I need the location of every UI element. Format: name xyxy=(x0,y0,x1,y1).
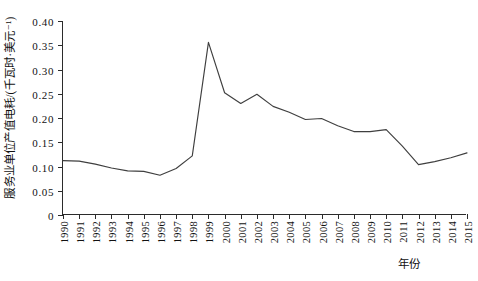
x-axis-tick: 2000 xyxy=(225,214,226,219)
x-axis-tick-label: 1992 xyxy=(91,221,102,243)
chart-figure: 服务业单位产值电耗/(千瓦时·美元⁻¹) 00.050.100.150.200.… xyxy=(0,0,478,281)
x-axis-tick-label: 1997 xyxy=(172,221,183,243)
x-axis-tick: 1994 xyxy=(128,214,129,219)
x-axis-tick: 2008 xyxy=(354,214,355,219)
x-axis-tick: 2005 xyxy=(305,214,306,219)
x-axis-tick-label: 2012 xyxy=(414,221,425,243)
y-axis-title: 服务业单位产值电耗/(千瓦时·美元⁻¹) xyxy=(0,0,18,215)
x-axis-tick-label: 2007 xyxy=(333,221,344,243)
y-axis-tick-label: 0.40 xyxy=(32,16,54,28)
x-axis-tick-label: 2001 xyxy=(236,221,247,243)
x-axis-tick-label: 2013 xyxy=(430,221,441,243)
y-axis-tick: 0.40 xyxy=(58,21,63,22)
y-axis-tick-label: 0.25 xyxy=(32,89,54,101)
y-axis-tick-label: 0.10 xyxy=(32,162,54,174)
series-polyline xyxy=(63,42,467,175)
x-axis-tick: 2014 xyxy=(451,214,452,219)
x-axis-tick: 1998 xyxy=(192,214,193,219)
x-axis-tick-label: 2002 xyxy=(252,221,263,243)
y-axis-tick-label: 0.20 xyxy=(32,113,54,125)
x-axis-tick-label: 1994 xyxy=(123,221,134,243)
x-axis-tick-label: 2015 xyxy=(463,221,474,243)
x-axis-tick: 2006 xyxy=(322,214,323,219)
line-series xyxy=(63,21,467,215)
x-axis-tick: 1996 xyxy=(160,214,161,219)
x-axis-tick-label: 2008 xyxy=(349,221,360,243)
y-axis-tick-label: 0 xyxy=(48,210,54,222)
x-axis-tick-label: 2000 xyxy=(220,221,231,243)
x-axis-tick-label: 2010 xyxy=(382,221,393,243)
y-axis-tick-label: 0.30 xyxy=(32,65,54,77)
x-axis-tick: 2002 xyxy=(257,214,258,219)
x-axis-tick: 2010 xyxy=(386,214,387,219)
x-axis-tick: 2003 xyxy=(273,214,274,219)
x-axis-tick-label: 1991 xyxy=(75,221,86,243)
x-axis-tick-label: 1998 xyxy=(188,221,199,243)
x-axis-tick-label: 1996 xyxy=(155,221,166,243)
x-axis-tick-label: 2003 xyxy=(269,221,280,243)
y-axis-tick: 0.25 xyxy=(58,94,63,95)
y-axis-tick-label: 0.35 xyxy=(32,40,54,52)
x-axis-tick-label: 1993 xyxy=(107,221,118,243)
x-axis-tick: 1991 xyxy=(79,214,80,219)
x-axis-tick-label: 2014 xyxy=(446,221,457,243)
x-axis-tick: 1999 xyxy=(208,214,209,219)
x-axis-tick-label: 1990 xyxy=(59,221,70,243)
x-axis-tick-label: 1999 xyxy=(204,221,215,243)
x-axis-tick: 2015 xyxy=(467,214,468,219)
y-axis-tick-label: 0.15 xyxy=(32,137,54,149)
x-axis-tick: 2011 xyxy=(402,214,403,219)
y-axis-tick: 0.05 xyxy=(58,191,63,192)
y-axis-tick: 0.10 xyxy=(58,167,63,168)
y-axis-tick: 0.35 xyxy=(58,45,63,46)
x-axis-tick: 1992 xyxy=(95,214,96,219)
plot-area: 00.050.100.150.200.250.300.350.401990199… xyxy=(62,21,466,215)
x-axis-tick: 2013 xyxy=(435,214,436,219)
x-axis-tick: 1997 xyxy=(176,214,177,219)
x-axis-tick-label: 2011 xyxy=(398,221,409,243)
x-axis-title: 年份 xyxy=(398,255,420,271)
y-axis-tick-label: 0.05 xyxy=(32,186,54,198)
x-axis-tick-label: 2009 xyxy=(366,221,377,243)
x-axis-tick-label: 2004 xyxy=(285,221,296,243)
x-axis-tick-label: 1995 xyxy=(139,221,150,243)
y-axis-tick: 0.30 xyxy=(58,70,63,71)
x-axis-tick-label: 2005 xyxy=(301,221,312,243)
x-axis-tick: 2009 xyxy=(370,214,371,219)
x-axis-tick: 1990 xyxy=(63,214,64,219)
x-axis-tick: 1995 xyxy=(144,214,145,219)
x-axis-tick: 2007 xyxy=(338,214,339,219)
x-axis-tick: 1993 xyxy=(111,214,112,219)
y-axis-tick: 0.15 xyxy=(58,142,63,143)
x-axis-tick: 2001 xyxy=(241,214,242,219)
x-axis-tick-label: 2006 xyxy=(317,221,328,243)
x-axis-tick: 2004 xyxy=(289,214,290,219)
y-axis-tick: 0.20 xyxy=(58,118,63,119)
x-axis-tick: 2012 xyxy=(419,214,420,219)
